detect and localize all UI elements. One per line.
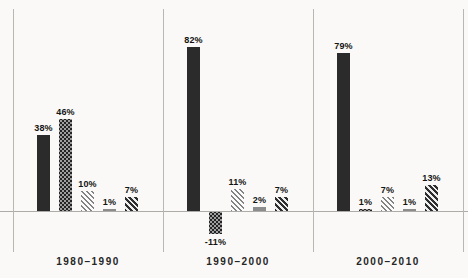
bar-hatch-dark [125,197,138,211]
bar-value-label: 11% [216,177,260,188]
bar-hatch-dark [275,197,288,211]
bar-solid-gray [403,209,416,211]
bar-checker-dark [359,209,372,211]
bar-value-label: 7% [366,185,410,196]
bar-value-label: 79% [322,41,366,52]
y-axis-line [13,9,14,252]
bar-value-label: 10% [66,179,110,190]
x-axis-group-label: 1980–1990 [13,256,163,267]
bar-hatch-dark [425,185,438,211]
bar-value-label: 7% [110,185,154,196]
bar-solid-gray [103,209,116,211]
bar-solid-dark [337,53,350,211]
bar-checker-dark [59,119,72,211]
decade-growth-bar-chart: 38%46%10%1%7%1980–199082%-11%11%2%7%1990… [0,0,468,278]
bar-value-label: 82% [172,35,216,46]
bar-solid-dark [37,135,50,211]
x-axis-baseline [0,211,468,212]
bar-value-label: 46% [44,107,88,118]
y-axis-line [313,9,314,252]
bar-value-label: -11% [194,237,238,248]
bar-value-label: 7% [260,185,304,196]
y-axis-line [163,9,164,252]
bar-solid-dark [187,47,200,211]
x-axis-group-label: 2000–2010 [313,256,463,267]
bar-solid-gray [253,207,266,211]
bar-checker-dark [209,212,222,234]
x-axis-group-label: 1990–2000 [163,256,313,267]
bar-value-label: 13% [410,173,454,184]
y-axis-line [463,9,464,252]
